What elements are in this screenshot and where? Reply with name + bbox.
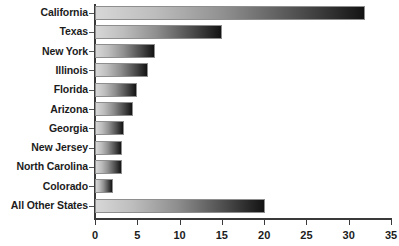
bar-row: California xyxy=(0,4,399,23)
x-axis-tick xyxy=(95,220,96,225)
x-axis-tick-label: 35 xyxy=(371,229,399,241)
y-axis-tick xyxy=(89,51,94,52)
x-axis-tick-labels: 05101520253035 xyxy=(0,229,399,245)
x-axis-tick xyxy=(222,220,223,225)
y-axis-tick xyxy=(89,90,94,91)
x-axis-tick-label: 15 xyxy=(202,229,242,241)
bar-category-label: Arizona xyxy=(0,103,88,115)
bar-row: Illinois xyxy=(0,62,399,81)
bar-row: Florida xyxy=(0,81,399,100)
y-axis-tick xyxy=(89,109,94,110)
bar xyxy=(95,6,365,20)
bar-category-label: All Other States xyxy=(0,199,88,211)
bar-row: All Other States xyxy=(0,197,399,216)
bar xyxy=(95,44,155,58)
x-axis-tick-label: 20 xyxy=(244,229,284,241)
x-axis-tick-label: 5 xyxy=(117,229,157,241)
y-axis-tick xyxy=(89,128,94,129)
bar-category-label: Illinois xyxy=(0,64,88,76)
y-axis-tick xyxy=(89,167,94,168)
bar xyxy=(95,199,265,213)
bar-category-label: Georgia xyxy=(0,122,88,134)
x-axis-tick-label: 25 xyxy=(286,229,326,241)
bar xyxy=(95,25,222,39)
bar-row: Texas xyxy=(0,23,399,42)
bar xyxy=(95,83,137,97)
x-axis-tick xyxy=(264,220,265,225)
bar-category-label: Florida xyxy=(0,83,88,95)
y-axis-tick xyxy=(89,186,94,187)
bar-row: New Jersey xyxy=(0,139,399,158)
bar-row: North Carolina xyxy=(0,158,399,177)
y-axis-tick xyxy=(89,13,94,14)
x-axis-tick-label: 30 xyxy=(329,229,369,241)
bar-category-label: California xyxy=(0,6,88,18)
bar xyxy=(95,63,148,77)
bar xyxy=(95,141,122,155)
bar xyxy=(95,179,113,193)
x-axis-tick-label: 0 xyxy=(75,229,115,241)
y-axis-tick xyxy=(89,32,94,33)
bar-row: Arizona xyxy=(0,101,399,120)
bar-category-label: New Jersey xyxy=(0,141,88,153)
bar-chart: CaliforniaTexasNew YorkIllinoisFloridaAr… xyxy=(0,0,399,246)
y-axis-tick xyxy=(89,70,94,71)
x-axis-tick xyxy=(349,220,350,225)
bar-category-label: Colorado xyxy=(0,180,88,192)
bar-row: New York xyxy=(0,43,399,62)
bar-row: Colorado xyxy=(0,178,399,197)
bar-row: Georgia xyxy=(0,120,399,139)
y-axis-tick xyxy=(89,148,94,149)
bar xyxy=(95,121,124,135)
bar-category-label: Texas xyxy=(0,25,88,37)
x-axis-tick xyxy=(137,220,138,225)
x-axis-tick-label: 10 xyxy=(160,229,200,241)
bar-category-label: New York xyxy=(0,45,88,57)
bar-category-label: North Carolina xyxy=(0,160,88,172)
plot-area: CaliforniaTexasNew YorkIllinoisFloridaAr… xyxy=(0,4,399,220)
bar-rows: CaliforniaTexasNew YorkIllinoisFloridaAr… xyxy=(0,4,399,218)
y-axis-tick xyxy=(89,206,94,207)
chart-title xyxy=(0,0,399,3)
x-axis-ticks xyxy=(0,220,399,226)
bar xyxy=(95,160,122,174)
x-axis-tick xyxy=(180,220,181,225)
bar xyxy=(95,102,133,116)
x-axis-tick xyxy=(391,220,392,225)
x-axis-tick xyxy=(306,220,307,225)
